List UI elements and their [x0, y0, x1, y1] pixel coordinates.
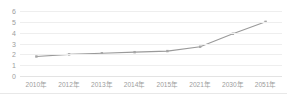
bottom-divider	[0, 93, 287, 94]
y-tick-label: 0	[12, 73, 16, 80]
x-tick-label: 2021年	[189, 79, 211, 91]
gridline-y-2	[20, 54, 282, 55]
x-tick-label: 2014年	[124, 79, 146, 91]
y-tick-label: 1	[12, 62, 16, 69]
data-point-marker	[35, 55, 37, 57]
gridline-y-5	[20, 22, 282, 23]
series-line	[36, 22, 265, 57]
data-point-marker	[133, 51, 135, 53]
x-axis-labels: 2010年2012年2013年2014年2015年2021年2030年2051年	[20, 79, 282, 91]
y-tick-label: 3	[12, 40, 16, 47]
data-point-marker	[166, 50, 168, 52]
x-tick-label: 2012年	[58, 79, 80, 91]
x-tick-label: 2013年	[91, 79, 113, 91]
x-tick-label: 2015年	[157, 79, 179, 91]
y-tick-label: 2	[12, 51, 16, 58]
gridline-y-6	[20, 11, 282, 12]
gridline-y-1	[20, 65, 282, 66]
data-point-marker	[199, 46, 201, 48]
gridline-y-0	[20, 76, 282, 77]
chart-title	[0, 0, 287, 3]
plot-area: 0123456	[20, 11, 282, 76]
x-tick-label: 2051年	[255, 79, 277, 91]
y-tick-label: 4	[12, 29, 16, 36]
y-tick-label: 6	[12, 8, 16, 15]
line-chart: 0123456 2010年2012年2013年2014年2015年2021年20…	[0, 0, 287, 95]
y-tick-label: 5	[12, 18, 16, 25]
x-tick-label: 2010年	[26, 79, 48, 91]
gridline-y-4	[20, 33, 282, 34]
gridline-y-3	[20, 44, 282, 45]
x-tick-label: 2030年	[222, 79, 244, 91]
